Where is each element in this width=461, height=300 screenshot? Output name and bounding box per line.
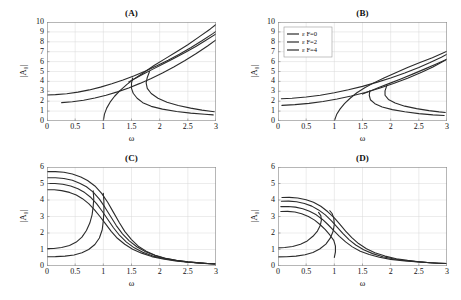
xtick-label: 2.5 — [407, 268, 431, 276]
ytick-label: 1 — [254, 246, 275, 254]
xtick-label: 0.5 — [294, 268, 318, 276]
panel-title-d: (D) — [278, 153, 447, 163]
ytick-label: 6 — [254, 163, 275, 171]
xtick-label: 2 — [379, 268, 403, 276]
panel-d: (D)012345600.511.522.53|A₀|ω — [0, 0, 461, 300]
ytick-label: 5 — [254, 180, 275, 188]
xtick-label: 1.5 — [351, 268, 375, 276]
figure-panel-grid: (A)01234567891000.511.522.53|A₀|ω(B)ε F=… — [0, 0, 461, 300]
y-axis-label: |A₀| — [249, 196, 259, 236]
xtick-label: 1 — [322, 268, 346, 276]
xtick-label: 3 — [435, 268, 459, 276]
plot-area-d — [278, 167, 447, 266]
xtick-label: 0 — [266, 268, 290, 276]
x-axis-label: ω — [278, 278, 447, 288]
